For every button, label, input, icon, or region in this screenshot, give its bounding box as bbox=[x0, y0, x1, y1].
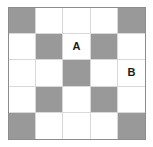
pattern-grid: AB bbox=[9, 8, 145, 139]
grid-cell-r2-c4 bbox=[91, 34, 118, 60]
figure-frame: AB bbox=[8, 7, 146, 140]
grid-cell-r5-c2 bbox=[36, 113, 63, 139]
grid-cell-r3-c4 bbox=[91, 60, 118, 86]
grid-cell-r1-c4 bbox=[91, 8, 118, 34]
grid-cell-r4-c5 bbox=[118, 87, 145, 113]
grid-cell-r4-c3 bbox=[63, 87, 90, 113]
grid-cell-r4-c2 bbox=[36, 87, 63, 113]
grid-cell-r3-c2 bbox=[36, 60, 63, 86]
cell-label-b: B bbox=[127, 67, 135, 78]
grid-cell-r4-c4 bbox=[91, 87, 118, 113]
grid-cell-r2-c2 bbox=[36, 34, 63, 60]
grid-cell-r1-c2 bbox=[36, 8, 63, 34]
grid-cell-r2-c5 bbox=[118, 34, 145, 60]
grid-cell-r5-c5 bbox=[118, 113, 145, 139]
grid-cell-r3-c1 bbox=[9, 60, 36, 86]
grid-cell-r5-c3 bbox=[63, 113, 90, 139]
grid-cell-r3-c5: B bbox=[118, 60, 145, 86]
grid-cell-r5-c4 bbox=[91, 113, 118, 139]
grid-cell-r2-c3: A bbox=[63, 34, 90, 60]
grid-cell-r5-c1 bbox=[9, 113, 36, 139]
grid-cell-r3-c3 bbox=[63, 60, 90, 86]
cell-label-a: A bbox=[73, 41, 81, 52]
grid-cell-r4-c1 bbox=[9, 87, 36, 113]
grid-cell-r1-c5 bbox=[118, 8, 145, 34]
grid-cell-r1-c1 bbox=[9, 8, 36, 34]
grid-cell-r2-c1 bbox=[9, 34, 36, 60]
grid-cell-r1-c3 bbox=[63, 8, 90, 34]
